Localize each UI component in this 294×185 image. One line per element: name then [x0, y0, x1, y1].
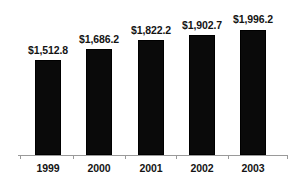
bar-column-2000: $1,686.2: [73, 0, 125, 155]
x-axis-line: [18, 155, 288, 156]
bar-column-2003: $1,996.2: [227, 0, 279, 155]
bar-2001: [138, 40, 164, 155]
axis-tick: [228, 155, 229, 159]
x-axis-labels: 1999 2000 2001 2002 2003: [0, 162, 294, 182]
axis-tick: [287, 155, 288, 159]
bar-1999: [35, 60, 61, 155]
x-axis-label-2002: 2002: [176, 162, 228, 174]
x-axis-label-1999: 1999: [22, 162, 74, 174]
x-axis-label-2000: 2000: [73, 162, 125, 174]
axis-tick: [73, 155, 74, 159]
bar-chart: $1,512.8 $1,686.2 $1,822.2 $1,902.7 $1,9…: [0, 0, 294, 185]
x-axis-label-2001: 2001: [125, 162, 177, 174]
bar-value-label: $1,996.2: [221, 13, 285, 25]
bar-column-1999: $1,512.8: [22, 0, 74, 155]
axis-tick: [125, 155, 126, 159]
bar-2000: [86, 49, 112, 155]
axis-tick: [20, 155, 21, 159]
bar-value-label: $1,512.8: [16, 44, 80, 56]
bar-2002: [189, 35, 215, 155]
bar-2003: [240, 30, 266, 155]
plot-area: $1,512.8 $1,686.2 $1,822.2 $1,902.7 $1,9…: [0, 0, 294, 155]
x-axis-label-2003: 2003: [227, 162, 279, 174]
axis-tick: [176, 155, 177, 159]
